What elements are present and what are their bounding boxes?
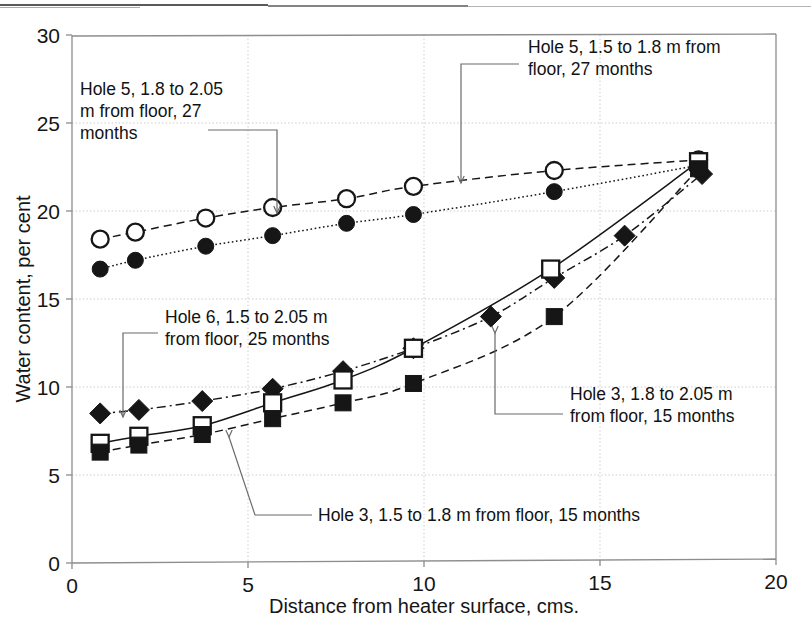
water-content-chart: 051015202530 05101520 Hole 5, 1.8 to 2.0… (0, 0, 811, 631)
annotation-text: Hole 6, 1.5 to 2.05 mfrom floor, 25 mont… (165, 307, 330, 349)
x-axis-title: Distance from heater surface, cms. (269, 595, 579, 617)
annotation-text: Hole 3, 1.8 to 2.05 mfrom floor, 15 mont… (570, 384, 735, 426)
annotation-text-line: floor, 27 months (528, 59, 653, 79)
annotation-text: Hole 3, 1.5 to 1.8 m from floor, 15 mont… (318, 505, 640, 525)
annot-hole6: Hole 6, 1.5 to 2.05 mfrom floor, 25 mont… (120, 307, 330, 417)
annotation-layer: Hole 5, 1.8 to 2.05m from floor, 27month… (80, 37, 735, 525)
data-point-filled-square (265, 411, 281, 427)
y-tick-label: 0 (48, 552, 60, 575)
data-point-open-circle (92, 231, 109, 248)
y-tick-label: 30 (37, 24, 60, 47)
annot-hole5-18-205: Hole 5, 1.8 to 2.05m from floor, 27month… (80, 79, 280, 213)
data-point-filled-square (92, 444, 108, 460)
data-point-filled-square (546, 309, 562, 325)
x-tick-label: 15 (588, 571, 611, 594)
series-0 (92, 151, 707, 247)
x-tick-label: 0 (66, 574, 78, 597)
y-tick-label: 5 (48, 464, 60, 487)
data-point-filled-square (194, 427, 210, 443)
annotation-arrowhead (492, 326, 498, 333)
data-point-open-circle (546, 162, 563, 179)
data-point-open-circle (127, 224, 144, 241)
figure-canvas: 051015202530 05101520 Hole 5, 1.8 to 2.0… (0, 0, 811, 631)
data-point-open-circle (405, 178, 422, 195)
data-point-filled-circle (405, 207, 421, 223)
annotation-text-line: Hole 3, 1.5 to 1.8 m from floor, 15 mont… (318, 505, 640, 525)
data-point-open-square (335, 371, 352, 388)
series-line (100, 160, 698, 239)
annotation-text-line: Hole 5, 1.5 to 1.8 m from (528, 37, 721, 57)
data-point-filled-diamond (128, 399, 149, 420)
data-point-filled-circle (265, 228, 281, 244)
annotation-leader-line (229, 437, 312, 515)
annot-hole3-15-18: Hole 3, 1.5 to 1.8 m from floor, 15 mont… (226, 430, 640, 525)
annotation-text-line: Hole 3, 1.8 to 2.05 m (570, 384, 732, 404)
data-point-open-square (264, 394, 281, 411)
x-tick-label: 5 (242, 573, 254, 596)
y-axis-title: Water content, per cent (12, 195, 34, 403)
series-1 (92, 157, 706, 277)
x-tick-label: 20 (764, 570, 787, 593)
annotation-text-line: m from floor, 27 (80, 101, 202, 121)
annotation-text-line: Hole 6, 1.5 to 2.05 m (165, 307, 327, 327)
data-point-filled-circle (546, 184, 562, 200)
annotation-text-line: from floor, 25 months (165, 329, 330, 349)
data-point-filled-diamond (614, 225, 635, 246)
data-point-filled-diamond (90, 403, 111, 424)
data-point-open-circle (264, 199, 281, 216)
data-point-filled-diamond (192, 391, 213, 412)
annotation-text: Hole 5, 1.5 to 1.8 m fromfloor, 27 month… (528, 37, 721, 79)
annotation-text-line: months (80, 123, 138, 143)
annotation-leader-line (495, 333, 563, 414)
y-tick-label: 10 (37, 376, 60, 399)
series-line (100, 165, 698, 269)
data-point-filled-circle (339, 215, 355, 231)
x-axis-ticks: 05101520 (66, 559, 788, 597)
annotation-arrowhead (226, 430, 232, 437)
y-tick-label: 15 (37, 288, 60, 311)
data-point-filled-circle (127, 252, 143, 268)
y-tick-label: 25 (37, 112, 60, 135)
series-line (100, 174, 702, 413)
y-tick-label: 20 (37, 200, 60, 223)
data-point-filled-circle (92, 261, 108, 277)
data-point-open-square (542, 261, 559, 278)
data-point-filled-square (405, 375, 421, 391)
data-point-open-square (405, 340, 422, 357)
annot-hole3-18-205: Hole 3, 1.8 to 2.05 mfrom floor, 15 mont… (492, 326, 735, 426)
data-point-filled-square (335, 395, 351, 411)
annotation-text-line: from floor, 15 months (570, 406, 735, 426)
annotation-text-line: Hole 5, 1.8 to 2.05 (80, 79, 223, 99)
data-point-filled-square (691, 161, 707, 177)
data-point-filled-circle (198, 238, 214, 254)
data-point-filled-square (131, 437, 147, 453)
x-tick-label: 10 (412, 572, 435, 595)
y-axis-ticks: 051015202530 (37, 24, 72, 575)
data-point-open-circle (338, 190, 355, 207)
data-point-open-circle (197, 210, 214, 227)
annotation-text: Hole 5, 1.8 to 2.05m from floor, 27month… (80, 79, 223, 143)
